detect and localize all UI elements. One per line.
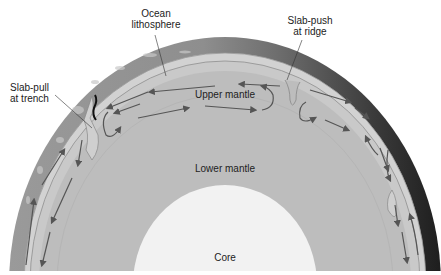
label-core: Core [195, 252, 255, 263]
label-ocean-line2: lithosphere [126, 19, 186, 30]
label-slab-push-line2: at ridge [280, 26, 340, 37]
label-lower-mantle: Lower mantle [180, 163, 270, 174]
label-slab-pull-line2: at trench [10, 93, 49, 104]
label-slab-pull-line1: Slab-pull [10, 82, 49, 93]
earth-cross-section-diagram: Ocean lithosphere Slab-push at ridge Sla… [0, 0, 441, 275]
label-upper-mantle: Upper mantle [180, 89, 270, 100]
label-ocean-lithosphere: Ocean lithosphere [126, 8, 186, 30]
label-slab-push: Slab-push at ridge [280, 15, 340, 37]
label-slab-push-line1: Slab-push [280, 15, 340, 26]
label-slab-pull: Slab-pull at trench [10, 82, 49, 104]
diagram-canvas [0, 0, 441, 275]
label-ocean-line1: Ocean [126, 8, 186, 19]
